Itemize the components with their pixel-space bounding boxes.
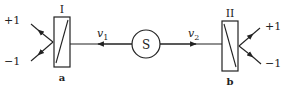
beam-v2: v2 (160, 27, 222, 44)
source: S (132, 30, 160, 58)
analyzer-b: II b +1 −1 (222, 7, 281, 87)
analyzer-b-diagonal (224, 24, 236, 67)
analyzer-a-minus-arrow (38, 42, 53, 55)
analyzer-a-diagonal (56, 20, 68, 63)
analyzer-b-plus-label: +1 (265, 20, 281, 33)
analyzer-a-plus-label: +1 (4, 14, 20, 27)
beam-v2-label: v2 (188, 27, 199, 42)
stern-gerlach-diagram: I a +1 −1 v1 S v2 II b +1 −1 (0, 0, 294, 89)
analyzer-a-plus-arrow (38, 30, 53, 42)
analyzer-b-roman: II (226, 7, 235, 20)
beam-v1: v1 (70, 27, 132, 44)
analyzer-a-roman: I (60, 3, 64, 16)
analyzer-b-minus-arrow (239, 46, 253, 57)
analyzer-b-letter: b (227, 76, 234, 87)
analyzer-b-plus-arrow (239, 34, 253, 46)
analyzer-a: I a +1 −1 (4, 3, 70, 83)
analyzer-b-minus-label: −1 (265, 57, 281, 70)
beam-v1-label: v1 (97, 27, 108, 42)
analyzer-a-minus-label: −1 (4, 55, 20, 68)
source-label: S (142, 38, 150, 52)
analyzer-a-letter: a (59, 72, 66, 83)
